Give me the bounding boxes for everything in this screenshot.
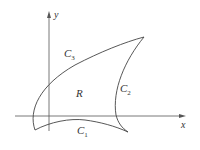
- y-axis: [47, 11, 51, 131]
- x-axis-arrow-icon: [179, 114, 186, 118]
- curve-c3-subscript: 3: [71, 54, 75, 62]
- curve-c1-subscript: 1: [84, 131, 88, 139]
- x-axis-label: x: [180, 119, 186, 130]
- curve-c2-label: C2: [120, 82, 131, 97]
- y-axis-arrow-icon: [47, 11, 51, 18]
- curve-c2-subscript: 2: [127, 89, 131, 97]
- curve-c1-label: C1: [77, 124, 88, 139]
- x-axis: [15, 114, 186, 118]
- y-axis-label: y: [53, 9, 59, 20]
- diagram-canvas: x y R C3 C2 C1: [0, 0, 200, 150]
- region-label: R: [75, 87, 83, 99]
- curve-c3-label: C3: [64, 47, 75, 62]
